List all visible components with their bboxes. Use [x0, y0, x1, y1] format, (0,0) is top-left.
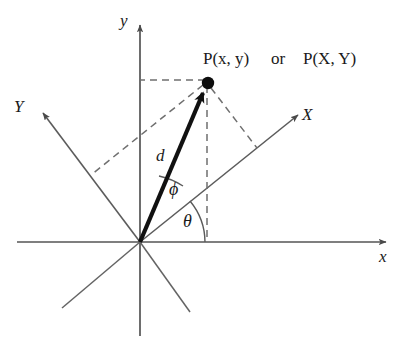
angle-phi-label: ϕ: [169, 180, 178, 198]
theta-arc: [190, 201, 205, 242]
X-axis-label: X: [302, 106, 312, 123]
Y-axis-negative-extension: [140, 242, 190, 312]
Y-axis-line: [43, 113, 140, 242]
X-axis-negative-extension: [62, 242, 140, 308]
projection-to-X-axis: [211, 88, 257, 148]
conjunction-or-label: or: [271, 50, 285, 67]
point-P-xy-label: P(x, y): [203, 50, 249, 67]
X-axis-line: [140, 115, 298, 242]
primary-axes: [17, 25, 386, 336]
x-axis-label: x: [379, 248, 387, 265]
rotated-axes: [43, 113, 298, 312]
distance-vector-group: [140, 93, 203, 242]
angle-theta-label: θ: [183, 212, 192, 230]
distance-vector-d: [140, 93, 203, 242]
point-P-XY-label: P(X, Y): [303, 50, 356, 67]
y-axis-label: y: [120, 12, 128, 29]
distance-label-d: d: [156, 147, 165, 164]
point-P-marker: [202, 77, 214, 89]
figure-canvas: y x Y X P(x, y) or P(X, Y) d ϕ θ: [0, 0, 402, 341]
Y-axis-label: Y: [14, 98, 23, 115]
